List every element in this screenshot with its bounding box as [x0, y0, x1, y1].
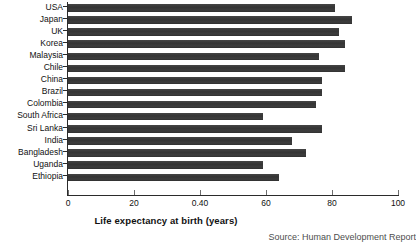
category-label: Korea — [1, 39, 63, 48]
x-axis-tick — [134, 190, 135, 195]
bar — [68, 16, 352, 23]
x-axis-tick-label: 20 — [129, 198, 138, 208]
bar — [68, 4, 335, 11]
y-axis-tick — [63, 6, 67, 7]
category-label: UK — [1, 27, 63, 36]
y-axis-category-labels: USAJapanUKKoreaMalaysiaChileChinaBrazilC… — [0, 2, 63, 195]
y-axis-tick — [63, 114, 67, 115]
bar-row — [68, 159, 398, 171]
x-axis-title: Life expectancy at birth (years) — [0, 215, 418, 226]
y-axis-tick — [63, 42, 67, 43]
y-axis-tick — [63, 127, 67, 128]
bar — [68, 125, 322, 132]
category-label: South Africa — [1, 111, 63, 120]
life-expectancy-bar-chart: USAJapanUKKoreaMalaysiaChileChinaBrazilC… — [0, 0, 418, 242]
bar — [68, 101, 316, 108]
y-axis-tick — [63, 18, 67, 19]
y-axis-tick — [63, 163, 67, 164]
bar-row — [68, 87, 398, 99]
bar — [68, 174, 279, 181]
bar — [68, 40, 345, 47]
x-axis-tick-label: 0 — [66, 198, 71, 208]
bar-row — [68, 99, 398, 111]
category-label: India — [1, 136, 63, 145]
y-axis-tick — [63, 54, 67, 55]
y-axis-tick — [63, 151, 67, 152]
bar — [68, 149, 306, 156]
y-axis-tick — [63, 66, 67, 67]
bar-row — [68, 123, 398, 135]
category-label: Japan — [1, 15, 63, 24]
bar — [68, 161, 263, 168]
bar — [68, 77, 322, 84]
bar-row — [68, 147, 398, 159]
category-label: Chile — [1, 63, 63, 72]
y-axis-tick — [63, 102, 67, 103]
y-axis-tick — [63, 175, 67, 176]
x-axis-tick-label: 80 — [327, 198, 336, 208]
bar — [68, 89, 322, 96]
bar — [68, 53, 319, 60]
category-label: Colombia — [1, 99, 63, 108]
bar-row — [68, 171, 398, 183]
x-axis-tick — [200, 190, 201, 195]
category-label: Sri Lanka — [1, 124, 63, 133]
plot-area — [68, 2, 398, 194]
y-axis-tick — [63, 139, 67, 140]
category-label: Malaysia — [1, 51, 63, 60]
bar-row — [68, 111, 398, 123]
bar-row — [68, 26, 398, 38]
category-label: China — [1, 75, 63, 84]
bar-row — [68, 50, 398, 62]
category-label: Uganda — [1, 160, 63, 169]
bar — [68, 113, 263, 120]
x-axis-tick-label: 60 — [261, 198, 270, 208]
bar-row — [68, 135, 398, 147]
bar-row — [68, 38, 398, 50]
x-axis-tick — [332, 190, 333, 195]
x-axis-tick — [68, 190, 69, 195]
x-axis-tick — [398, 190, 399, 195]
y-axis-tick — [63, 90, 67, 91]
bar-row — [68, 14, 398, 26]
y-axis-tick — [63, 78, 67, 79]
x-axis-tick-label: 0.40 — [192, 198, 209, 208]
y-axis-tick — [63, 30, 67, 31]
bar — [68, 65, 345, 72]
bar-row — [68, 75, 398, 87]
bar-row — [68, 63, 398, 75]
category-label: Brazil — [1, 87, 63, 96]
source-note: Source: Human Development Report — [268, 232, 416, 242]
category-label: Ethiopia — [1, 172, 63, 181]
x-axis-title-text: Life expectancy at birth (years) — [94, 215, 237, 226]
category-label: USA — [1, 3, 63, 12]
bar — [68, 28, 339, 35]
bar — [68, 137, 292, 144]
x-axis-line — [67, 195, 399, 196]
x-axis-tick — [266, 190, 267, 195]
x-axis-tick-label: 100 — [391, 198, 405, 208]
bar-row — [68, 2, 398, 14]
category-label: Bangladesh — [1, 148, 63, 157]
